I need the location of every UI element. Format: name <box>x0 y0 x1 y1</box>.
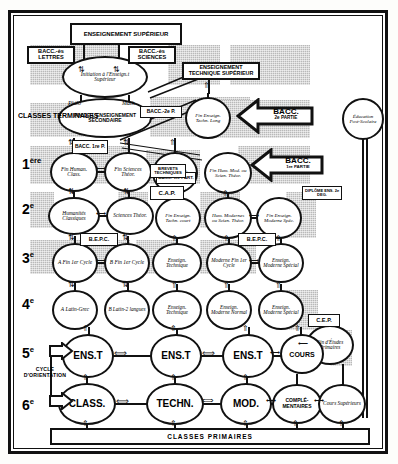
arrow-up-icon: ⇑ <box>170 325 177 333</box>
arrow-bacc-2e-partie[interactable]: BACC. 2e PARTIE <box>236 98 314 134</box>
arrow-up-icon: ⇑ <box>275 235 282 243</box>
arrow-left-right-icon: ⟺ <box>202 397 213 405</box>
node-a-latin-grec[interactable]: A Latin-Grec <box>52 290 98 330</box>
level-label-terminales: CLASSES TERMINALES <box>18 112 66 121</box>
node-fin-hum-mod-scien-theor[interactable]: Fin Hum. Mod. ou Scien. Théor. <box>204 152 252 194</box>
level-label-6e: 6e <box>22 397 34 413</box>
arrow-left-right-icon: ⟵ <box>298 340 308 347</box>
stem-education-post-scolaire <box>362 138 364 418</box>
label-philo: Philo <box>68 100 81 106</box>
box-brevets-techniques[interactable]: BREVETS TECHNIQUES <box>150 164 186 178</box>
arrow-left-right-icon: ⟷ <box>314 397 324 404</box>
arrow-up-icon: ⇑ <box>223 282 230 290</box>
arrow-bacc-1re-partie[interactable]: BACC. 1re PARTIE <box>250 148 324 182</box>
arrow-left-right-icon: ⟷ <box>270 349 280 356</box>
arrow-up-icon: ⇅ <box>113 66 120 74</box>
box-bacc-1re-p[interactable]: BACC. 1re P. <box>72 140 108 154</box>
bar-classes-primaires[interactable]: CLASSES PRIMAIRES <box>50 428 370 445</box>
arrow-left-right-icon: ⟷ <box>249 212 259 219</box>
arrow-left-right-icon: ⟺ <box>114 349 126 358</box>
box-enseignement-technique-superieur[interactable]: ENSEIGNEMENT TECHNIQUE SUPÉRIEUR <box>182 62 260 80</box>
node-b-fin-1er-cycle[interactable]: B Fin 1er Cycle <box>104 243 150 283</box>
box-bepc-left[interactable]: B.E.P.C. <box>80 233 118 246</box>
arrow-up-icon: ⇑ <box>171 235 178 243</box>
label-math: Math <box>122 100 135 106</box>
arrow-bacc-1re-line2: 1re PARTIE <box>275 165 321 170</box>
level-label-2e: 2e <box>22 201 34 217</box>
arrow-left-right-icon: ⟺ <box>202 349 215 358</box>
arrow-left-right-icon: ⟷ <box>96 257 106 264</box>
arrow-up-icon: ⇑ <box>338 420 345 428</box>
diagram-canvas: CLASSES TERMINALES 1ère 2e 3e 4e 5e 6e C… <box>0 0 398 464</box>
arrow-up-icon: ⇑ <box>294 325 301 333</box>
node-complementaires-6e[interactable]: COMPLÉ-MENTAIRES <box>272 384 322 424</box>
box-cep[interactable]: C.E.P. <box>308 314 340 327</box>
box-bacc-lettres[interactable]: BACC.-ès LETTRES <box>27 46 75 64</box>
arrow-cycle-5e[interactable] <box>48 342 74 360</box>
level-label-3e: 3e <box>22 250 34 266</box>
node-a-fin-1er-cycle[interactable]: A Fin 1er Cycle <box>52 243 98 283</box>
arrow-up-icon: ⇑ <box>222 190 229 198</box>
arrow-bacc-2e-line2: 2e PARTIE <box>262 116 310 121</box>
box-diplome-ens-2e-deg[interactable]: DIPLÔME ENS. 2e DEG. <box>302 186 342 200</box>
arrow-up-icon: ⇅ <box>68 281 75 289</box>
arrow-up-icon: ⇅ <box>123 139 130 147</box>
node-fin-sciences-theor[interactable]: Fin Sciences Théor. <box>104 152 152 192</box>
arrow-up-icon: ⇑ <box>171 282 178 290</box>
node-fin-human-class[interactable]: Fin Human. Class. <box>50 152 98 192</box>
box-bacc-2e-p[interactable]: BACC.-2e P. <box>140 106 182 118</box>
arrow-up-icon: ⇅ <box>68 188 75 196</box>
arrow-up-icon: ⇑ <box>292 420 299 428</box>
arrow-up-icon: ⇑ <box>242 325 249 333</box>
node-moderne-fin-1er-cycle[interactable]: Moderne Fin 1er Cycle <box>206 243 252 283</box>
node-b-latin-2-langues[interactable]: B Latin-2 langues <box>104 290 150 330</box>
arrow-cycle-6e[interactable] <box>48 392 74 410</box>
arrow-left-right-icon: ⟷ <box>249 257 259 264</box>
arrow-up-icon: ⇅ <box>78 66 85 74</box>
node-fin-enseign-techn-long[interactable]: Fin Enseign. Techn. Long <box>185 97 231 139</box>
arrow-up-icon: ⇅ <box>123 188 130 196</box>
node-fin-enseign-techn-court[interactable]: Fin Enseign. Techn. court <box>155 197 201 239</box>
node-cours-superieurs[interactable]: Cours Supérieurs <box>318 384 366 424</box>
arrow-up-icon: ⇑ <box>275 282 282 290</box>
arrow-up-icon: ⇑ <box>170 374 177 382</box>
node-education-post-scolaire[interactable]: Éducation Post-Scolaire <box>342 98 384 140</box>
level-label-1ere: 1ère <box>22 156 41 172</box>
node-enseign-technique-3e[interactable]: Enseign. Technique <box>152 243 202 283</box>
arrow-up-icon: ⇑ <box>82 374 89 382</box>
stem-education-post-scolaire-2 <box>366 138 368 418</box>
level-label-5e: 5e <box>22 345 34 361</box>
arrow-up-icon: ⇑ <box>82 420 89 428</box>
arrow-left-right-icon: ⟺ <box>116 397 129 406</box>
arrow-up-icon: ⇅ <box>122 281 129 289</box>
box-bepc-right[interactable]: B.E.P.C. <box>238 233 276 246</box>
arrow-up-icon: ⇑ <box>169 139 176 147</box>
arrow-up-icon: ⇑ <box>223 235 230 243</box>
cycle-orientation-label: CYCLE D'ORIENTATION <box>15 367 75 378</box>
node-ens-5e-techn[interactable]: ENS.T <box>150 334 202 378</box>
node-humanites-classiques[interactable]: Humanités Classiques <box>48 197 100 235</box>
node-enseign-moderne-special-3e[interactable]: Enseign. Moderne Spécial <box>258 243 304 283</box>
node-ens-5e-mod[interactable]: ENS.T <box>222 334 274 378</box>
arrow-up-icon: ⇑ <box>242 420 249 428</box>
arrow-left-right-icon: ⟷ <box>266 397 276 404</box>
arrow-up-icon: ⇑ <box>242 374 249 382</box>
connector-vertical <box>342 364 344 385</box>
node-enseign-technique-4e[interactable]: Enseign. Technique <box>152 290 202 330</box>
box-cap[interactable]: C.A.P. <box>150 186 184 200</box>
arrow-up-icon: ⇑ <box>203 82 210 90</box>
arrow-up-icon: ⇑ <box>170 420 177 428</box>
box-bacc-sciences[interactable]: BACC.-ès SCIENCES <box>128 46 176 64</box>
arrow-up-icon: ⇅ <box>122 234 129 242</box>
arrow-up-icon: ⇑ <box>82 325 89 333</box>
arrow-left-right-icon: ⟷ <box>96 210 106 217</box>
level-label-4e: 4e <box>22 296 34 312</box>
arrow-up-icon: ⇅ <box>68 234 75 242</box>
box-enseignement-superieur[interactable]: ENSEIGNEMENT SUPÉRIEUR <box>70 23 182 45</box>
arrow-left-right-icon: ⟷ <box>96 165 106 172</box>
node-sciences-theor[interactable]: Sciences Théor. <box>106 197 154 235</box>
